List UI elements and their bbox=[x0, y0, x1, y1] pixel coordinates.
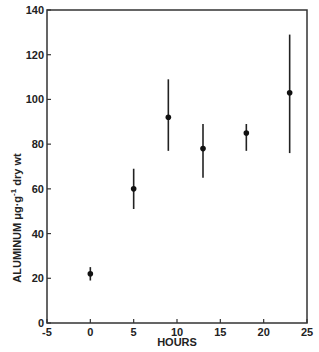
y-tick-label: 60 bbox=[32, 183, 44, 195]
x-tick-label: 15 bbox=[214, 326, 226, 338]
y-tick-label: 100 bbox=[26, 93, 44, 105]
data-point bbox=[200, 146, 206, 152]
y-axis-label: ALUMINUM μg·g-1 dry wt bbox=[9, 153, 23, 283]
data-points bbox=[88, 35, 293, 281]
data-point bbox=[244, 130, 250, 136]
y-tick-label: 120 bbox=[26, 49, 44, 61]
data-point bbox=[131, 186, 137, 192]
scatter-chart: 020406080100120140 -50510152025 HOURS AL… bbox=[0, 0, 319, 352]
x-tick-label: 0 bbox=[87, 326, 93, 338]
data-point bbox=[287, 90, 293, 96]
data-point bbox=[88, 271, 94, 277]
y-tick-label: 80 bbox=[32, 138, 44, 150]
plot-frame bbox=[47, 10, 307, 323]
y-tick-label: 40 bbox=[32, 228, 44, 240]
y-tick-label: 20 bbox=[32, 272, 44, 284]
x-tick-label: 25 bbox=[301, 326, 313, 338]
x-tick-label: -5 bbox=[42, 326, 52, 338]
x-tick-label: 5 bbox=[131, 326, 137, 338]
y-tick-label: 140 bbox=[26, 4, 44, 16]
x-tick-label: 20 bbox=[258, 326, 270, 338]
data-point bbox=[166, 115, 172, 121]
x-axis-label: HOURS bbox=[157, 336, 197, 348]
